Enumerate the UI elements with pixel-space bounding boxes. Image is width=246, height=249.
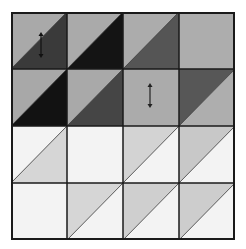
grid-cell (67, 183, 123, 240)
grid-cell (67, 126, 123, 183)
grid-cell (11, 183, 67, 240)
grid-cell (123, 69, 179, 126)
grid-cell (11, 69, 67, 126)
cell-fill (67, 126, 123, 183)
grid-cell (179, 12, 235, 69)
grid-cell (179, 183, 235, 240)
grid-cell (67, 69, 123, 126)
cell-fill (11, 183, 67, 240)
grid-cell (179, 126, 235, 183)
cell-fill (179, 12, 235, 69)
grid-cell (179, 69, 235, 126)
grid-cell (123, 183, 179, 240)
quilt-grid-diagram (11, 12, 235, 240)
grid-cell (11, 12, 67, 69)
grid-canvas (11, 12, 235, 240)
cell-fill (123, 69, 179, 126)
grid-cell (11, 126, 67, 183)
grid-cell (123, 126, 179, 183)
grid-cell (123, 12, 179, 69)
grid-cell (67, 12, 123, 69)
